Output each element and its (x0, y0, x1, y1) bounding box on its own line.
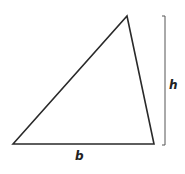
diagram-graphics (0, 0, 185, 174)
height-bracket (162, 16, 165, 145)
triangle (13, 16, 154, 144)
height-label: h (169, 79, 178, 91)
triangle-diagram: h b (0, 0, 185, 174)
base-label: b (75, 150, 84, 162)
